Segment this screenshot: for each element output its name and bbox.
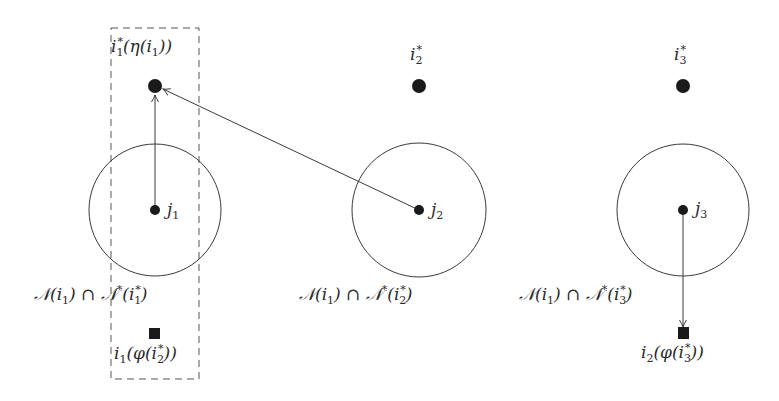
square-node-3 [678, 327, 689, 339]
edge-j2-to-i1star [163, 89, 419, 210]
node-i2-star [412, 79, 426, 93]
label-neighborhood-3: 𝒩(i1) ∩ 𝒩*(i3*) [519, 283, 632, 307]
label-j2: j2 [427, 199, 443, 222]
label-i2-star: i2* [410, 43, 422, 67]
label-neighborhood-2: 𝒩(i1) ∩ 𝒩*(i2*) [299, 283, 412, 307]
label-i1-star-eta: i1*(η(i1)) [111, 35, 172, 59]
node-i3-star [676, 79, 690, 93]
label-neighborhood-1: 𝒩(i1) ∩ 𝒩*(i1*) [34, 283, 147, 307]
label-j3: j3 [691, 198, 707, 221]
label-i3-star: i3* [674, 43, 686, 67]
node-j3 [678, 205, 688, 215]
label-j1: j1 [163, 199, 179, 222]
node-j2 [414, 205, 424, 215]
neighborhood-diagram: i1*(η(i1)) i2* i3* j1 j2 j3 𝒩(i1) ∩ 𝒩*(i… [0, 0, 779, 401]
square-node-1 [149, 328, 160, 339]
node-i1-star [148, 79, 162, 93]
node-j1 [150, 205, 160, 215]
label-square-3: i2(φ(i3*)) [641, 341, 704, 365]
label-square-1: i1(φ(i2*)) [114, 342, 177, 366]
